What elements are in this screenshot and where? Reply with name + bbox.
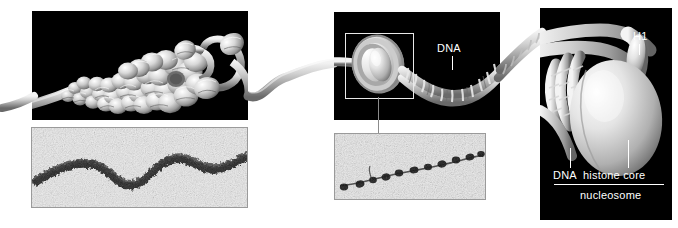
label-nucleosome: nucleosome: [580, 190, 641, 201]
linker-tube-left-to-middle: [248, 59, 334, 97]
label-dna-right-leader: [570, 148, 571, 168]
label-histone-core: histone core: [583, 170, 645, 181]
label-dna-middle-leader: [452, 56, 453, 70]
label-h1: H1: [633, 31, 647, 42]
condensed-chromatin-panel: [32, 11, 248, 120]
figure-canvas: DNA H1 DNA histone core nucleosome: [0, 0, 678, 228]
label-h1-leader: [639, 44, 640, 55]
label-histone-core-leader: [628, 140, 629, 168]
label-dna-middle: DNA: [437, 43, 461, 54]
label-dna-right: DNA: [553, 170, 577, 181]
nucleosome-selection-box: [345, 33, 414, 99]
thirty-nm-fiber-micrograph: [31, 127, 248, 208]
dna-helix-bridge: [498, 32, 542, 78]
selection-connector-line: [378, 97, 379, 133]
nucleosome-bracket: [554, 184, 664, 185]
beads-on-string-micrograph: [334, 133, 486, 200]
fiber-tail-left: [2, 96, 34, 108]
